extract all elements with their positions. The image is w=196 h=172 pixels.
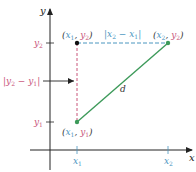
point-x2-y2: [166, 41, 170, 45]
x-axis-label: x: [189, 152, 195, 163]
point-label-x2-y2: (x2, y2): [153, 30, 184, 41]
point-label-x1-y2: (x1, y2): [62, 30, 93, 41]
point-label-x1-y1: (x1, y1): [62, 127, 93, 138]
vertical-distance-label: |y2 − y1|: [3, 76, 40, 87]
distance-formula-diagram: y x y2 y1 x1 x2 d (x1, y2) (x2, y2) (x1,…: [0, 0, 196, 172]
point-x1-y2: [75, 41, 79, 45]
tick-label-x2: x2: [164, 156, 173, 167]
tick-label-y2: y2: [33, 38, 43, 49]
y-axis-label: y: [39, 5, 46, 16]
tick-label-y1: y1: [33, 117, 43, 128]
distance-segment-d: [77, 43, 168, 122]
point-x1-y1: [75, 120, 79, 124]
horizontal-distance-label: |x2 − x1|: [104, 29, 141, 40]
distance-label-d: d: [120, 84, 126, 94]
tick-label-x1: x1: [73, 156, 82, 167]
